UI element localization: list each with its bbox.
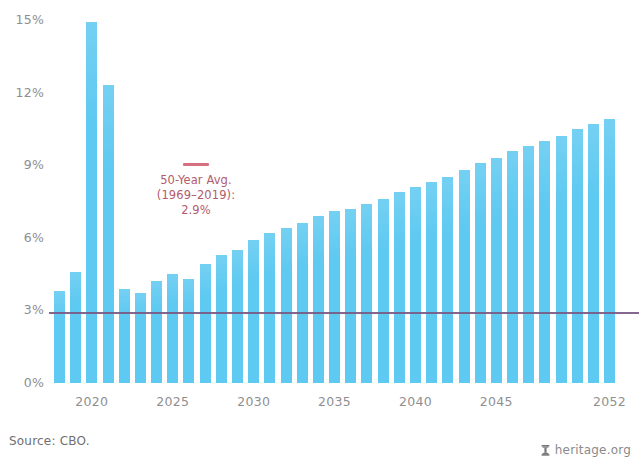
- bar-2051: [588, 124, 599, 383]
- annotation-line-1: 50-Year Avg.: [134, 173, 258, 188]
- y-tick-6: 6%: [0, 232, 44, 245]
- bar-2042: [442, 177, 453, 383]
- bar-2025: [167, 274, 178, 383]
- bar-2031: [264, 233, 275, 383]
- bar-2046: [507, 151, 518, 383]
- bar-2034: [313, 216, 324, 383]
- bar-2048: [539, 141, 550, 383]
- bar-2029: [232, 250, 243, 383]
- x-tick-2040: 2040: [399, 396, 432, 409]
- bar-2035: [329, 211, 340, 383]
- x-tick-2025: 2025: [156, 396, 189, 409]
- y-tick-12: 12%: [0, 86, 44, 99]
- bar-2028: [216, 255, 227, 383]
- bar-2021: [103, 85, 114, 383]
- bar-2024: [151, 281, 162, 383]
- bar-2023: [135, 293, 146, 383]
- x-tick-2030: 2030: [237, 396, 270, 409]
- heritage-logo-icon: [541, 445, 550, 456]
- bar-2038: [378, 199, 389, 383]
- bar-2036: [345, 209, 356, 383]
- bar-2032: [281, 228, 292, 383]
- x-tick-2045: 2045: [480, 396, 513, 409]
- bar-2022: [119, 289, 130, 383]
- x-tick-2052: 2052: [593, 396, 626, 409]
- bar-2045: [491, 158, 502, 383]
- average-annotation: 50-Year Avg. (1969–2019): 2.9%: [134, 163, 258, 218]
- y-tick-3: 3%: [0, 304, 44, 317]
- y-tick-15: 15%: [0, 14, 44, 27]
- annotation-line-3: 2.9%: [134, 203, 258, 218]
- bar-2018: [54, 291, 65, 383]
- bar-2040: [410, 187, 421, 383]
- brand-credit: heritage.org: [541, 443, 631, 457]
- bar-2044: [475, 163, 486, 383]
- bar-2033: [297, 223, 308, 383]
- chart-footer: Source: CBO. heritage.org: [0, 420, 639, 464]
- bar-2027: [200, 264, 211, 383]
- x-tick-2020: 2020: [75, 396, 108, 409]
- bar-2039: [394, 192, 405, 383]
- bar-2019: [70, 272, 81, 383]
- annotation-line-2: (1969–2019):: [134, 188, 258, 203]
- bar-2043: [459, 170, 470, 383]
- average-legend-swatch: [183, 163, 209, 166]
- bar-2026: [183, 279, 194, 383]
- average-reference-line: [49, 312, 639, 314]
- y-tick-9: 9%: [0, 159, 44, 172]
- bar-2050: [572, 129, 583, 383]
- bar-2049: [556, 136, 567, 383]
- x-tick-2035: 2035: [318, 396, 351, 409]
- bar-2020: [86, 22, 97, 383]
- bar-2041: [426, 182, 437, 383]
- plot-area: 0%3%6%9%12%15% 50-Year Avg. (1969–2019):…: [0, 0, 639, 420]
- bar-2037: [361, 204, 372, 383]
- source-note: Source: CBO.: [9, 434, 90, 448]
- bar-2052: [604, 119, 615, 383]
- brand-label: heritage.org: [555, 443, 631, 457]
- y-tick-0: 0%: [0, 377, 44, 390]
- bar-2047: [523, 146, 534, 383]
- chart-figure: 0%3%6%9%12%15% 50-Year Avg. (1969–2019):…: [0, 0, 639, 464]
